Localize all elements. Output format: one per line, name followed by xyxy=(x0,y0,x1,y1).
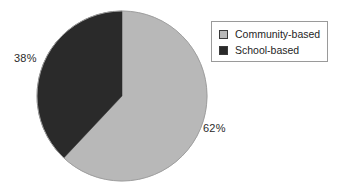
slice-label-school-based: 38% xyxy=(14,52,37,64)
legend-item-community-based[interactable]: Community-based xyxy=(219,27,320,41)
pie-chart-figure: 38% 62% Community-based School-based xyxy=(0,0,342,188)
pie-slices-group xyxy=(37,11,207,181)
legend-label-school-based: School-based xyxy=(235,45,299,56)
legend-swatch-school-based xyxy=(219,46,228,55)
legend-item-school-based[interactable]: School-based xyxy=(219,43,299,57)
legend-label-community-based: Community-based xyxy=(235,29,320,40)
legend: Community-based School-based xyxy=(211,21,328,62)
legend-swatch-community-based xyxy=(219,30,228,39)
slice-label-community-based: 62% xyxy=(203,122,226,134)
